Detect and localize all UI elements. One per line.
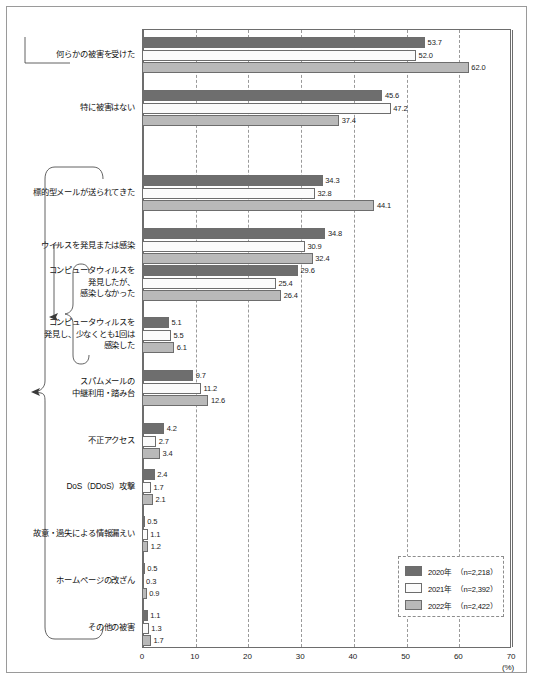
category-label-0: 何らかの被害を受けた (17, 49, 135, 60)
bar-value-label: 47.2 (393, 103, 407, 114)
chart-canvas: 53.752.062.0何らかの被害を受けた45.647.237.4特に被害はな… (7, 7, 528, 674)
bar-2021-4 (142, 278, 276, 289)
bar-value-label: 0.3 (146, 576, 156, 587)
bar-2021-3 (142, 241, 305, 252)
bar-value-label: 26.4 (284, 290, 298, 301)
category-label-3: ウイルスを発見または感染 (17, 240, 135, 251)
bar-value-label: 53.7 (428, 37, 442, 48)
category-label-11: その他の被害 (17, 622, 135, 633)
axis-unit-label: (%) (502, 663, 514, 672)
bar-value-label: 37.4 (342, 115, 356, 126)
category-label-4: コンピュータウィルスを 発見したが、 感染しなかった (17, 265, 135, 299)
x-tick-20: 20 (234, 652, 260, 661)
category-label-2: 標的型メールが送られてきた (17, 187, 135, 198)
bar-value-label: 34.8 (328, 228, 342, 239)
bar-value-label: 62.0 (471, 62, 485, 73)
bar-value-label: 5.1 (171, 317, 181, 328)
bar-2020-8 (142, 469, 155, 480)
category-label-7: 不正アクセス (17, 435, 135, 446)
bar-2020-3 (142, 228, 325, 239)
bar-value-label: 1.7 (153, 635, 163, 646)
bar-value-label: 0.9 (149, 588, 159, 599)
bar-2022-8 (142, 494, 153, 505)
gridline-50 (407, 30, 408, 647)
bar-2020-6 (142, 370, 193, 381)
bar-2022-5 (142, 342, 174, 353)
legend-item-2[interactable]: 2022年 （n=2,422） (405, 597, 498, 613)
x-tick-60: 60 (445, 652, 471, 661)
page-frame: 53.752.062.0何らかの被害を受けた45.647.237.4特に被害はな… (6, 6, 527, 673)
legend-label-0: 2020年 （n=2,218） (428, 566, 498, 577)
bar-value-label: 30.9 (307, 241, 321, 252)
chart-legend: 2020年 （n=2,218）2021年 （n=2,392）2022年 （n=2… (398, 556, 504, 617)
legend-label-2: 2022年 （n=2,422） (428, 600, 498, 611)
bar-value-label: 2.1 (156, 494, 166, 505)
bar-2022-11 (142, 635, 151, 646)
bar-value-label: 25.4 (278, 278, 292, 289)
bar-value-label: 12.6 (211, 395, 225, 406)
bar-2022-3 (142, 253, 313, 264)
legend-item-0[interactable]: 2020年 （n=2,218） (405, 563, 498, 579)
category-label-5: コンピュータウィルスを 発見し、少なくとも1回は 感染した (17, 317, 135, 351)
bar-2022-7 (142, 448, 160, 459)
bar-2021-8 (142, 482, 151, 493)
bar-2020-0 (142, 37, 425, 48)
bar-2020-4 (142, 265, 298, 276)
bar-value-label: 1.2 (151, 541, 161, 552)
bar-2022-9 (142, 541, 148, 552)
bar-2022-1 (142, 115, 339, 126)
bar-2021-6 (142, 383, 201, 394)
bar-value-label: 52.0 (419, 50, 433, 61)
legend-item-1[interactable]: 2021年 （n=2,392） (405, 580, 498, 596)
bar-value-label: 3.4 (162, 448, 172, 459)
legend-swatch-0 (405, 566, 422, 576)
category-label-1: 特に被害はない (17, 102, 135, 113)
bar-2022-0 (142, 62, 469, 73)
bar-value-label: 1.1 (150, 529, 160, 540)
bar-value-label: 11.2 (204, 383, 218, 394)
bar-2021-5 (142, 330, 171, 341)
x-tick-0: 0 (129, 652, 155, 661)
bottom-caption (8, 679, 208, 687)
bar-value-label: 5.5 (173, 330, 183, 341)
bar-2021-10 (142, 576, 144, 587)
bar-2022-4 (142, 290, 281, 301)
bar-2020-2 (142, 175, 323, 186)
bar-2021-2 (142, 188, 315, 199)
bar-2020-5 (142, 317, 169, 328)
bar-2020-11 (142, 610, 148, 621)
bar-value-label: 1.7 (153, 482, 163, 493)
x-tick-50: 50 (393, 652, 419, 661)
bar-value-label: 4.2 (167, 423, 177, 434)
category-label-6: スパムメールの 中継利用・踏み台 (17, 376, 135, 399)
legend-label-1: 2021年 （n=2,392） (428, 583, 498, 594)
bar-value-label: 34.3 (325, 175, 339, 186)
bar-2021-7 (142, 436, 156, 447)
bar-value-label: 32.4 (315, 253, 329, 264)
bar-value-label: 1.3 (151, 623, 161, 634)
bar-value-label: 0.5 (147, 563, 157, 574)
category-label-10: ホームページの改ざん (17, 575, 135, 586)
bar-2020-1 (142, 90, 382, 101)
bar-value-label: 1.1 (150, 610, 160, 621)
category-label-9: 故意・過失による情報漏えい (17, 528, 135, 539)
bar-2021-1 (142, 103, 391, 114)
bar-2022-6 (142, 395, 208, 406)
bar-value-label: 2.4 (157, 469, 167, 480)
bar-value-label: 44.1 (377, 200, 391, 211)
x-tick-10: 10 (182, 652, 208, 661)
x-tick-40: 40 (340, 652, 366, 661)
bar-2020-9 (142, 516, 145, 527)
bar-value-label: 6.1 (177, 342, 187, 353)
legend-swatch-2 (405, 600, 422, 610)
bar-value-label: 45.6 (385, 90, 399, 101)
bar-value-label: 0.5 (147, 516, 157, 527)
bar-2021-11 (142, 623, 149, 634)
bar-value-label: 29.6 (301, 265, 315, 276)
x-tick-70: 70 (498, 652, 524, 661)
gridline-70 (512, 30, 513, 647)
bar-value-label: 32.8 (317, 188, 331, 199)
bar-2022-2 (142, 200, 374, 211)
legend-swatch-1 (405, 583, 422, 593)
bar-2021-9 (142, 529, 148, 540)
